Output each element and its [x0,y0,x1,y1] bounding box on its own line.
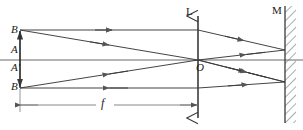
ray-parallel-refracted [198,30,285,50]
focal-length-dimension [20,89,198,113]
label-mirror: M [272,5,282,16]
label-object-base: A [11,44,18,55]
label-image-base: A' [11,62,20,73]
label-lens-centre: O [196,62,204,73]
optical-ray-diagram: B A A' B' O L M f [0,0,303,130]
ray-through-centre-incident [20,30,198,60]
diagram-canvas [0,0,303,130]
label-lens: L [186,6,193,17]
ray-reflected-exit-diagonal [20,60,198,88]
ray-reflected-lower [198,60,285,82]
ray-lower-refracted [198,82,285,88]
ray-reflected-upper [198,50,285,60]
label-object-top: B [11,24,18,35]
mirror-surface [285,6,296,123]
label-focal-length: f [101,97,104,109]
label-image-top: B' [11,81,20,92]
